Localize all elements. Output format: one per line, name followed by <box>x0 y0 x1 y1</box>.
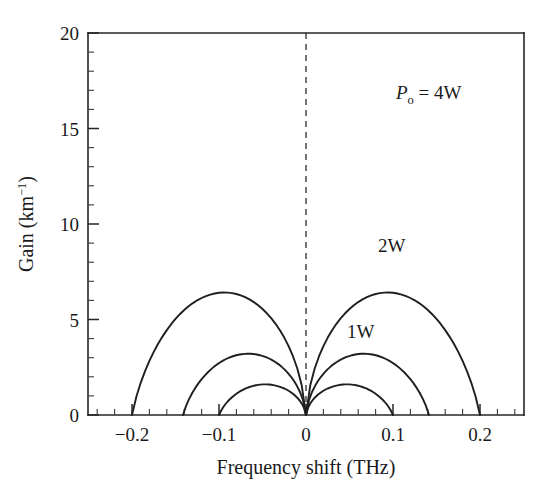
y-tick-label-20: 20 <box>60 23 79 44</box>
curve-label-2w: 2W <box>378 235 406 256</box>
curve-label-4w-rest: = 4W <box>414 82 462 103</box>
y-tick-label-5: 5 <box>70 310 80 331</box>
curve-label-4w: Po = 4W <box>395 82 462 107</box>
curve-label-4w-symbol: P <box>395 82 408 103</box>
gain-spectrum-chart: 0 5 10 15 20 −0.2 −0.1 0 0.1 0.2 Frequen… <box>0 0 551 498</box>
y-tick-label-0: 0 <box>70 405 80 426</box>
x-tick-label-neg0.2: −0.2 <box>115 424 149 445</box>
x-tick-label-0: 0 <box>301 424 311 445</box>
y-tick-labels: 0 5 10 15 20 <box>60 23 79 426</box>
y-axis-ticks <box>88 33 99 415</box>
y-tick-label-15: 15 <box>60 119 79 140</box>
figure-container: 0 5 10 15 20 −0.2 −0.1 0 0.1 0.2 Frequen… <box>0 0 551 498</box>
x-tick-label-0.2: 0.2 <box>468 424 492 445</box>
y-axis-title-close: ) <box>15 176 38 183</box>
x-tick-label-0.1: 0.1 <box>381 424 405 445</box>
x-tick-labels: −0.2 −0.1 0 0.1 0.2 <box>115 424 492 445</box>
y-axis-title-exponent: −1 <box>15 183 29 196</box>
x-tick-label-neg0.1: −0.1 <box>202 424 236 445</box>
y-tick-label-10: 10 <box>60 214 79 235</box>
curve-label-1w: 1W <box>347 321 375 342</box>
y-axis-title: Gain (km−1) <box>15 176 38 272</box>
y-axis-title-base: Gain (km <box>15 196 38 273</box>
x-axis-title: Frequency shift (THz) <box>217 456 396 479</box>
svg-text:Gain (km−1): Gain (km−1) <box>15 176 38 272</box>
